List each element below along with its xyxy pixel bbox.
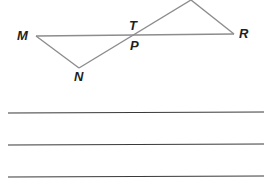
label-t: T: [129, 18, 138, 33]
segment-mn: [36, 36, 79, 68]
geometry-diagram: M T P N R: [0, 0, 268, 185]
answer-line-3: [8, 176, 264, 177]
label-m: M: [17, 28, 29, 43]
label-r: R: [239, 26, 249, 41]
label-p: P: [130, 38, 139, 53]
answer-line-2: [8, 144, 264, 145]
segment-top-r: [191, 0, 234, 34]
label-n: N: [74, 69, 84, 84]
answer-line-1: [8, 112, 264, 113]
